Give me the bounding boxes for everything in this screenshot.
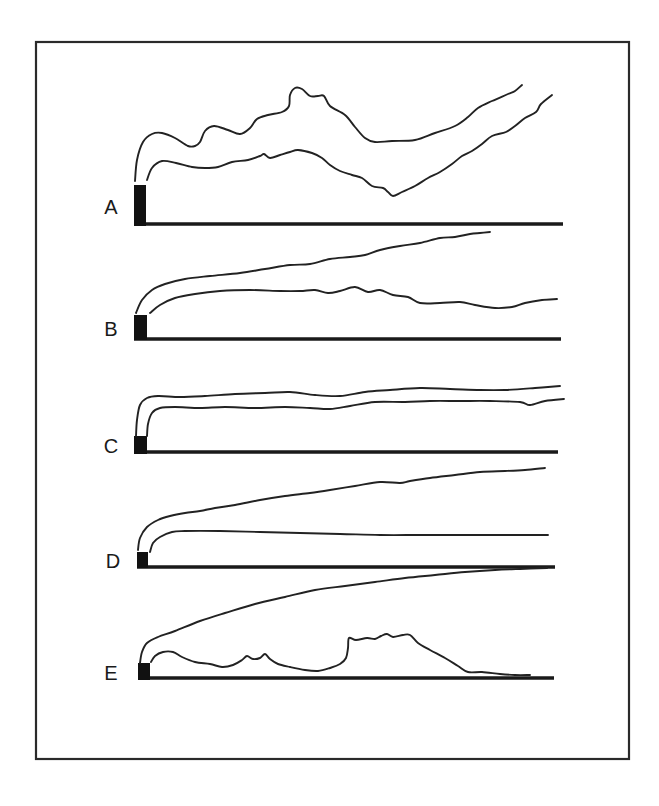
smokestack-icon [134,436,147,454]
plume-upper-boundary [136,386,560,436]
panel-d: D [106,468,555,572]
panel-label-d: D [106,550,120,572]
plume-lower-boundary [150,531,548,552]
panel-b: B [104,232,561,340]
panel-a: A [104,85,563,226]
panel-label-e: E [104,662,117,684]
smokestack-icon [138,663,150,680]
panel-label-a: A [104,196,118,218]
panel-label-b: B [104,318,117,340]
plume-upper-boundary [136,232,490,313]
smokestack-icon [134,185,146,226]
plume-lower-boundary [147,399,564,436]
panel-c: C [104,386,564,457]
plume-lower-boundary [150,287,557,313]
plume-panels: ABCDE [104,85,564,684]
figure-frame [36,42,629,759]
plume-upper-boundary [140,568,547,663]
smokestack-icon [137,552,148,568]
plume-upper-boundary [138,468,545,550]
panel-label-c: C [104,435,118,457]
plume-lower-boundary [147,95,552,196]
plume-diagram: ABCDE [0,0,659,806]
plume-lower-boundary [151,634,530,675]
smokestack-icon [134,315,147,340]
panel-e: E [104,568,554,684]
